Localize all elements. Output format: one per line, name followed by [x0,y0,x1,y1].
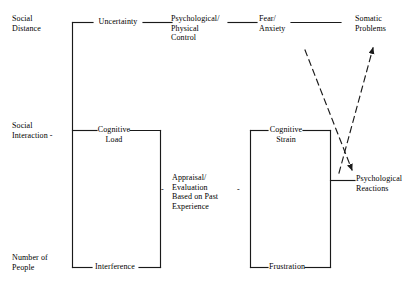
appraisal-right-dash: - [237,185,240,195]
node-social-interaction: Social Interaction - [12,121,53,140]
node-psychological-physical-control: Psychological/ Physical Control [171,14,231,43]
node-psychological-reactions: Psychological Reactions [356,174,414,193]
node-number-of-people: Number of People [12,253,48,272]
crowding-stress-diagram: Social Distance Social Interaction - Num… [0,0,414,284]
node-uncertainty: Uncertainty [90,17,146,27]
node-frustration: Frustration [266,262,308,272]
appraisal-left-dash: - [161,185,164,195]
node-fear-anxiety: Fear/ Anxiety [259,14,293,33]
node-interference: Interference [88,262,142,272]
node-somatic-problems: Somatic Problems [355,14,405,33]
node-appraisal-evaluation: Appraisal/ Evaluation Based on Past Expe… [172,173,232,211]
node-cognitive-strain: Cognitive Strain [267,125,305,144]
node-social-distance: Social Distance [12,14,41,33]
dashed-arrow-to-psychological-reactions [305,50,352,170]
dashed-arrow-to-somatic-problems [339,48,373,173]
node-cognitive-load: Cognitive Load [96,125,132,144]
diagram-connectors [0,0,414,284]
